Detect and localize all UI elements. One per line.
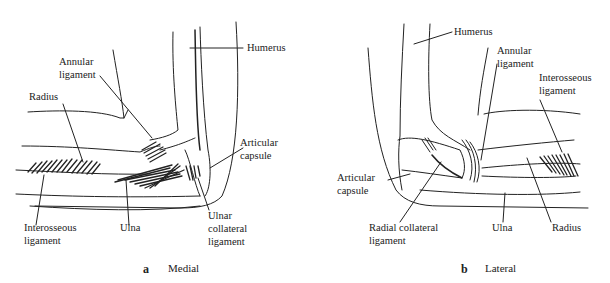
elbow-diagram-drawing: [0, 0, 610, 283]
label-radius-b: Radius: [552, 222, 581, 234]
panel-a-letter: a: [143, 262, 149, 277]
label-ulna-b: Ulna: [492, 222, 512, 234]
panel-a-view: Medial: [168, 262, 199, 274]
label-humerus-a: Humerus: [247, 42, 286, 54]
label-annular-a-2: ligament: [59, 69, 96, 81]
label-annular-a-1: Annular: [59, 56, 93, 68]
label-interosseous-b-2: ligament: [539, 85, 576, 97]
label-ulnar-coll-a-2: collateral: [208, 223, 247, 235]
label-radial-coll-b-2: ligament: [369, 235, 406, 247]
label-radius-a: Radius: [29, 91, 58, 103]
label-interosseous-a-2: ligament: [24, 235, 61, 247]
label-annular-b-2: ligament: [497, 58, 534, 70]
panel-a-drawing: [16, 22, 243, 225]
label-articular-b-2: capsule: [337, 185, 369, 197]
panel-b-view: Lateral: [485, 262, 516, 274]
panel-b-drawing: [368, 24, 588, 222]
label-humerus-b: Humerus: [454, 26, 493, 38]
panel-b-letter: b: [461, 262, 468, 277]
label-interosseous-a-1: Interosseous: [24, 222, 77, 234]
label-articular-b-1: Articular: [337, 172, 375, 184]
label-ulnar-coll-a-3: ligament: [208, 236, 245, 248]
label-annular-b-1: Annular: [497, 45, 531, 57]
label-radial-coll-b-1: Radial collateral: [369, 222, 438, 234]
label-interosseous-b-1: Interosseous: [539, 72, 592, 84]
label-articular-a-1: Articular: [240, 137, 278, 149]
label-articular-a-2: capsule: [240, 150, 272, 162]
label-ulna-a: Ulna: [120, 222, 140, 234]
label-ulnar-coll-a-1: Ulnar: [208, 210, 232, 222]
